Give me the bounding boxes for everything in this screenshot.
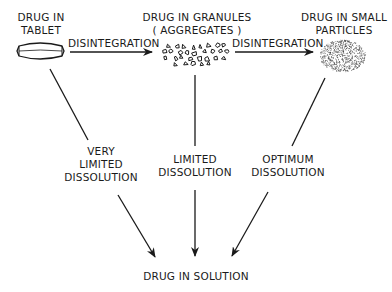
particle — [320, 53, 321, 54]
particle — [332, 66, 333, 67]
particle — [354, 67, 355, 68]
granule — [167, 44, 171, 47]
particle — [323, 62, 324, 63]
particle — [342, 67, 343, 68]
particle — [326, 50, 327, 51]
particle — [348, 50, 349, 51]
particle — [342, 56, 343, 57]
particle — [352, 64, 353, 65]
very-limited-line2: LIMITED — [58, 158, 144, 171]
particle — [350, 67, 351, 68]
particle — [342, 64, 343, 65]
particle — [330, 50, 331, 51]
particle — [361, 61, 362, 62]
particle — [334, 49, 335, 50]
particle — [329, 47, 330, 48]
particle — [351, 53, 352, 54]
particle — [341, 68, 342, 69]
particle — [347, 58, 348, 59]
particle — [351, 47, 352, 48]
particle — [342, 46, 343, 47]
limited-line1: LIMITED — [152, 153, 238, 166]
particle — [337, 52, 338, 53]
particle — [333, 46, 334, 47]
particle — [343, 70, 344, 71]
particle — [358, 59, 359, 60]
particle — [361, 60, 362, 61]
particle — [361, 47, 362, 48]
particle — [348, 44, 349, 45]
particle — [328, 56, 329, 57]
particle — [326, 60, 327, 61]
particle — [345, 63, 346, 64]
particle — [331, 45, 332, 46]
particle — [333, 61, 334, 62]
particle — [334, 51, 335, 52]
node-tablet-label: DRUG IN TABLET — [12, 11, 70, 37]
particle — [336, 59, 337, 60]
granule — [192, 45, 195, 49]
particle — [328, 62, 329, 63]
particle — [337, 69, 338, 70]
granule — [205, 57, 210, 62]
particle — [349, 46, 350, 47]
particle — [358, 53, 359, 54]
particle — [343, 51, 344, 52]
particle — [322, 61, 323, 62]
particle — [326, 45, 327, 46]
particle — [346, 48, 347, 49]
granules-icon — [163, 43, 229, 66]
particle — [361, 59, 362, 60]
particle — [335, 68, 336, 69]
particle — [346, 62, 347, 63]
particle — [336, 71, 337, 72]
particle — [362, 55, 363, 56]
particle — [340, 70, 341, 71]
particle — [339, 41, 340, 42]
particle — [336, 49, 337, 50]
particle — [324, 62, 325, 63]
limited-line2: DISSOLUTION — [152, 166, 238, 179]
particle — [329, 54, 330, 55]
particle — [355, 60, 356, 61]
particle — [351, 70, 352, 71]
particle — [339, 55, 340, 56]
particle — [358, 65, 359, 66]
particle — [345, 70, 346, 71]
particle — [347, 55, 348, 56]
particle — [330, 62, 331, 63]
particle — [333, 69, 334, 70]
particle — [357, 56, 358, 57]
granule — [200, 62, 203, 66]
particle — [330, 59, 331, 60]
node-solution-label: DRUG IN SOLUTION — [130, 270, 262, 283]
particle — [342, 47, 343, 48]
particle — [332, 45, 333, 46]
particle — [346, 68, 347, 69]
particle — [329, 63, 330, 64]
particle — [349, 68, 350, 69]
particle — [342, 40, 343, 41]
granule — [192, 52, 197, 56]
particle — [349, 66, 350, 67]
particle — [343, 70, 344, 71]
particle — [347, 41, 348, 42]
node-particles-label: DRUG IN SMALL PARTICLES — [296, 11, 392, 37]
particle — [352, 51, 353, 52]
particle — [331, 65, 332, 66]
particle — [342, 59, 343, 60]
particle — [345, 46, 346, 47]
particle — [352, 55, 353, 56]
particle — [336, 51, 337, 52]
particle — [338, 54, 339, 55]
particle — [338, 57, 339, 58]
particle — [341, 48, 342, 49]
particle — [351, 58, 352, 59]
particle — [325, 49, 326, 50]
particle — [345, 58, 346, 59]
arrow-tablet-to-solution — [118, 195, 155, 257]
particle — [330, 42, 331, 43]
particle — [341, 45, 342, 46]
particle — [359, 56, 360, 57]
particle — [340, 42, 341, 43]
